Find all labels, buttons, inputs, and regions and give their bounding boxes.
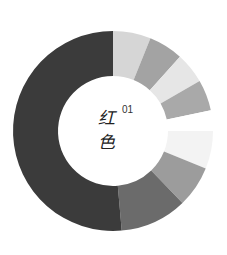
center-label: 红 色 01 — [98, 106, 138, 154]
center-superscript: 01 — [122, 104, 133, 115]
center-char-2: 色 — [98, 130, 138, 154]
